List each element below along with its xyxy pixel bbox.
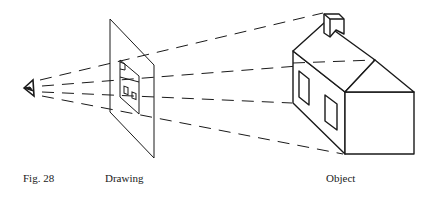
figure-number: Fig. 28 — [23, 172, 54, 184]
figure-diagram: Fig. 28 Drawing Object — [0, 0, 433, 198]
sight-line-top — [40, 13, 323, 80]
perspective-diagram — [0, 0, 433, 198]
house-object — [293, 14, 414, 154]
sight-line-wall — [42, 92, 292, 103]
eye-icon — [24, 80, 34, 96]
picture-plane — [110, 19, 154, 158]
drawing-caption: Drawing — [105, 172, 144, 184]
object-caption: Object — [326, 172, 355, 184]
projected-house-sketch — [120, 60, 139, 114]
